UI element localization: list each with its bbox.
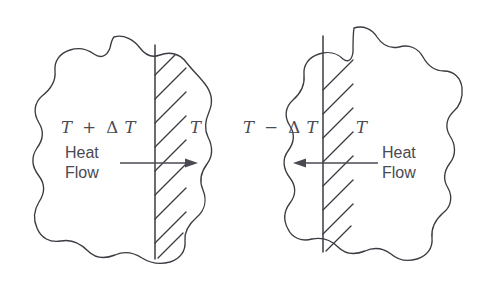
blob-outline-left — [33, 36, 212, 263]
heat-flow-label-right-line1: Heat — [382, 144, 416, 161]
delta-symbol: Δ — [288, 118, 300, 137]
panel-left: T + Δ T T Heat Flow — [33, 36, 212, 263]
diagram-canvas: Heat flow across an interface between tw… — [0, 0, 483, 297]
heat-flow-label-left-line2: Flow — [65, 164, 99, 181]
heat-flow-label-right-line2: Flow — [382, 164, 416, 181]
delta-symbol: Δ — [106, 118, 118, 137]
panel-right: T − Δ T T Heat Flow — [243, 27, 462, 260]
temp-operator: − — [264, 118, 278, 137]
temperature-label-cool-right: T − Δ T — [243, 118, 320, 137]
blob-outline-right — [284, 27, 462, 260]
temp-symbol: T — [243, 118, 256, 137]
temperature-label-hot-left: T + Δ T — [61, 118, 138, 137]
temp-symbol: T — [61, 118, 74, 137]
temp-operator: + — [82, 118, 96, 137]
heat-flow-diagram: Heat flow across an interface between tw… — [0, 0, 483, 297]
heat-flow-label-left-line1: Heat — [65, 144, 99, 161]
